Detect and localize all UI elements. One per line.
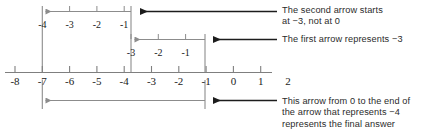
second-arrow-label--2: -2 <box>93 19 101 30</box>
first-arrow-label--3: -3 <box>127 47 135 58</box>
first-arrow-group <box>131 34 205 72</box>
axis-label-2: 2 <box>285 75 291 87</box>
second-arrow-group <box>42 6 131 72</box>
axis-label--8: -8 <box>10 75 19 87</box>
annotation-answer-arrow: This arrow from 0 to the end of the arro… <box>282 96 410 130</box>
second-arrow-label--4: -4 <box>38 19 46 30</box>
axis-label-0: 0 <box>231 75 237 87</box>
axis-label--2: -2 <box>174 75 183 87</box>
axis-label--7: -7 <box>38 75 47 87</box>
axis-label--1: -1 <box>202 75 211 87</box>
annotation-first-arrow: The first arrow represents −3 <box>282 34 403 45</box>
first-arrow-label--1: -1 <box>181 47 189 58</box>
second-arrow-label--3: -3 <box>65 19 73 30</box>
axis-group <box>5 66 272 73</box>
axis-label--6: -6 <box>65 75 74 87</box>
axis-label--3: -3 <box>147 75 156 87</box>
annotation-second-arrow: The second arrow starts at −3, not at 0 <box>282 5 383 28</box>
first-arrow-label--2: -2 <box>154 47 162 58</box>
axis-label-1: 1 <box>258 75 264 87</box>
axis-label--5: -5 <box>92 75 101 87</box>
number-line-diagram: -4 -3 -2 -1 -3 -2 -1 -8 -7 -6 -5 -4 -3 -… <box>0 0 430 139</box>
axis-label--4: -4 <box>120 75 129 87</box>
second-arrow-label--1: -1 <box>120 19 128 30</box>
